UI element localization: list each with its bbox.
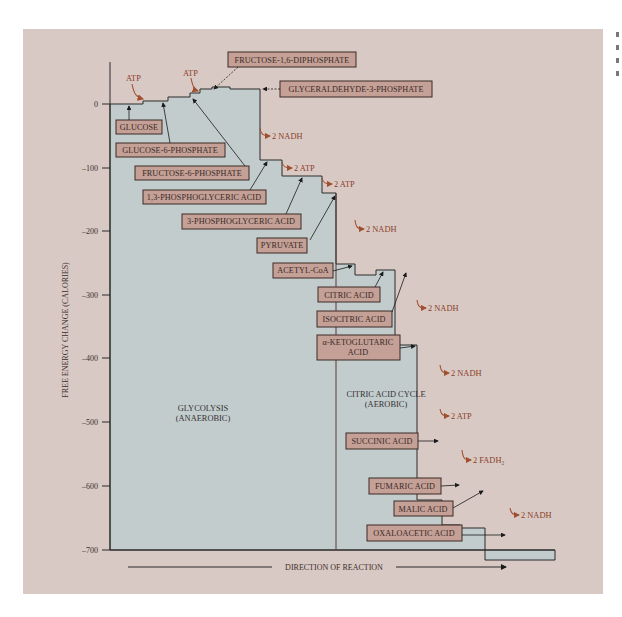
label-1-3-phosphoglyceric-acid: 1,3-PHOSPHOGLYCERIC ACID bbox=[143, 190, 266, 204]
product-nadh-2: 2 NADH bbox=[366, 225, 396, 234]
svg-text:α-KETOGLUTARIC: α-KETOGLUTARIC bbox=[323, 338, 394, 347]
label-glyceraldehyde-3-phosphate: GLYCERALDEHYDE-3-PHOSPHATE bbox=[280, 81, 432, 97]
svg-text:FRUCTOSE-1,6-DIPHOSPHATE: FRUCTOSE-1,6-DIPHOSPHATE bbox=[235, 56, 350, 65]
product-nadh-1: 2 NADH bbox=[272, 132, 302, 141]
glycolysis-title: GLYCOLYSIS bbox=[178, 404, 229, 413]
product-nadh-3: 2 NADH bbox=[428, 304, 458, 313]
y-tick-200: –200 bbox=[81, 227, 98, 236]
svg-text:GLUCOSE-6-PHOSPHATE: GLUCOSE-6-PHOSPHATE bbox=[122, 146, 218, 155]
label-glucose: GLUCOSE bbox=[116, 120, 162, 134]
product-nadh-4: 2 NADH bbox=[451, 369, 481, 378]
svg-text:MALIC ACID: MALIC ACID bbox=[399, 505, 448, 514]
label-isocitric-acid: ISOCITRIC ACID bbox=[317, 311, 392, 327]
label-3-phosphoglyceric-acid: 3-PHOSPHOGLYCERIC ACID bbox=[182, 214, 301, 229]
y-tick-0: 0 bbox=[94, 100, 98, 109]
label-succinic-acid: SUCCINIC ACID bbox=[346, 433, 418, 449]
product-atp-2: 2 ATP bbox=[334, 180, 355, 189]
label-fumaric-acid: FUMARIC ACID bbox=[369, 478, 441, 494]
svg-text:ACID: ACID bbox=[348, 348, 368, 357]
svg-text:ISOCITRIC ACID: ISOCITRIC ACID bbox=[322, 315, 385, 324]
y-tick-100: –100 bbox=[81, 164, 98, 173]
svg-text:GLYCERALDEHYDE-3-PHOSPHATE: GLYCERALDEHYDE-3-PHOSPHATE bbox=[288, 85, 423, 94]
label-alpha-ketoglutaric-acid: α-KETOGLUTARIC ACID bbox=[317, 335, 400, 360]
product-fadh2: 2 FADH₂ bbox=[473, 456, 504, 465]
citric-cycle-subtitle: (AEROBIC) bbox=[365, 400, 408, 409]
svg-text:CITRIC ACID: CITRIC ACID bbox=[324, 291, 374, 300]
svg-text:1,3-PHOSPHOGLYCERIC ACID: 1,3-PHOSPHOGLYCERIC ACID bbox=[147, 193, 261, 202]
atp-input-arrows bbox=[132, 78, 198, 99]
y-tick-600: –600 bbox=[81, 482, 98, 491]
y-axis-ticks bbox=[102, 104, 110, 550]
y-tick-700: –700 bbox=[81, 546, 98, 555]
svg-text:GLUCOSE: GLUCOSE bbox=[120, 123, 158, 132]
label-oxaloacetic-acid: OXALOACETIC ACID bbox=[367, 525, 462, 541]
label-pyruvate: PYRUVATE bbox=[257, 238, 307, 253]
product-atp-1: 2 ATP bbox=[294, 164, 315, 173]
label-fructose-1-6-diphosphate: FRUCTOSE-1,6-DIPHOSPHATE bbox=[228, 52, 356, 67]
svg-text:PYRUVATE: PYRUVATE bbox=[261, 241, 304, 250]
atp-input-1: ATP bbox=[126, 74, 141, 83]
product-atp-3: 2 ATP bbox=[451, 412, 472, 421]
y-tick-300: –300 bbox=[81, 291, 98, 300]
label-acetyl-coa: ACETYL-CoA bbox=[273, 263, 333, 278]
svg-text:FRUCTOSE-6-PHOSPHATE: FRUCTOSE-6-PHOSPHATE bbox=[142, 169, 242, 178]
svg-text:ACETYL-CoA: ACETYL-CoA bbox=[277, 266, 328, 275]
atp-input-2: ATP bbox=[183, 69, 198, 78]
label-fructose-6-phosphate: FRUCTOSE-6-PHOSPHATE bbox=[135, 166, 249, 180]
glycolysis-subtitle: (ANAEROBIC) bbox=[176, 414, 231, 423]
svg-text:OXALOACETIC ACID: OXALOACETIC ACID bbox=[373, 529, 454, 538]
citric-cycle-title: CITRIC ACID CYCLE bbox=[346, 390, 425, 399]
label-malic-acid: MALIC ACID bbox=[394, 501, 453, 516]
svg-text:FUMARIC ACID: FUMARIC ACID bbox=[375, 482, 435, 491]
x-axis-label: DIRECTION OF REACTION bbox=[285, 563, 383, 572]
label-glucose-6-phosphate: GLUCOSE-6-PHOSPHATE bbox=[116, 143, 225, 157]
free-energy-diagram: 0 –100 –200 –300 –400 –500 –600 –700 FRE… bbox=[0, 0, 622, 617]
label-citric-acid: CITRIC ACID bbox=[318, 287, 380, 302]
svg-text:3-PHOSPHOGLYCERIC ACID: 3-PHOSPHOGLYCERIC ACID bbox=[187, 217, 295, 226]
y-tick-500: –500 bbox=[81, 418, 98, 427]
margin-marks bbox=[616, 32, 622, 102]
svg-text:SUCCINIC ACID: SUCCINIC ACID bbox=[351, 437, 412, 446]
y-tick-400: –400 bbox=[81, 354, 98, 363]
y-axis-label: FREE ENERGY CHANGE (CALORIES) bbox=[61, 262, 70, 398]
product-nadh-5: 2 NADH bbox=[521, 511, 551, 520]
